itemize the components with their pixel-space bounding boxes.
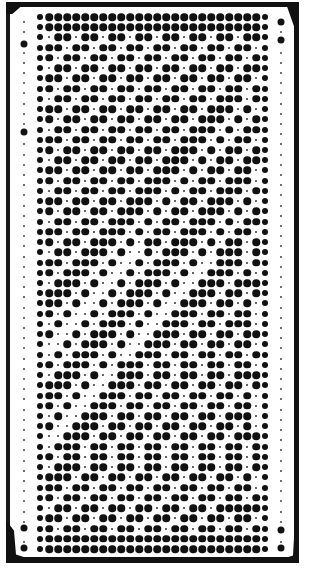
punched-hole — [189, 187, 197, 195]
punched-hole — [45, 494, 53, 502]
marker-dot — [57, 180, 59, 182]
punched-hole — [81, 126, 89, 134]
punched-hole — [90, 187, 98, 195]
punched-hole — [126, 443, 134, 451]
punched-hole — [180, 54, 188, 62]
punched-hole — [171, 463, 179, 471]
punched-hole — [262, 178, 268, 184]
punched-hole — [207, 515, 215, 523]
punched-hole — [126, 105, 134, 113]
punched-hole — [189, 545, 197, 553]
punched-hole — [180, 320, 188, 328]
marker-dot — [165, 210, 167, 212]
punched-hole — [180, 310, 188, 318]
punched-hole — [171, 443, 179, 451]
punched-hole — [63, 289, 71, 297]
punched-hole — [189, 34, 197, 42]
edge-marker-dot — [280, 460, 282, 462]
punched-hole — [189, 146, 197, 154]
punched-hole — [54, 504, 62, 512]
punched-hole — [81, 187, 89, 195]
marker-dot — [183, 292, 185, 294]
edge-marker-dot — [23, 276, 25, 278]
punched-hole — [108, 351, 116, 359]
punched-hole — [162, 433, 170, 441]
punched-hole — [234, 371, 242, 379]
punched-hole — [243, 167, 251, 175]
punched-hole — [262, 167, 268, 173]
punched-hole — [135, 136, 143, 144]
punched-hole — [135, 95, 143, 103]
marker-dot — [156, 200, 158, 202]
marker-dot — [165, 384, 167, 386]
punched-hole — [144, 474, 152, 482]
punched-hole — [252, 525, 260, 533]
marker-dot — [111, 149, 113, 151]
punched-hole — [162, 361, 170, 369]
punched-hole — [72, 44, 80, 52]
edge-marker-dot — [23, 225, 25, 227]
punched-hole — [54, 187, 62, 195]
punched-hole — [189, 13, 197, 21]
punched-hole — [63, 474, 71, 482]
punched-hole — [207, 361, 215, 369]
punched-hole — [262, 546, 268, 552]
punched-hole — [171, 85, 179, 93]
punched-hole — [262, 485, 268, 491]
marker-dot — [165, 118, 167, 120]
punched-hole — [72, 259, 80, 267]
punched-hole — [180, 105, 188, 113]
punched-hole — [180, 382, 188, 390]
punched-hole — [117, 371, 125, 379]
punched-hole — [216, 310, 224, 318]
marker-dot — [201, 241, 203, 243]
punched-hole — [54, 300, 62, 308]
punched-hole — [207, 75, 215, 83]
punched-hole — [216, 34, 224, 42]
punched-hole — [144, 525, 152, 533]
punched-hole — [108, 320, 116, 328]
punched-hole — [252, 259, 260, 267]
marker-dot — [111, 251, 113, 253]
marker-dot — [174, 292, 176, 294]
punched-hole — [207, 208, 215, 216]
punched-hole — [81, 23, 89, 31]
marker-dot — [129, 323, 131, 325]
marker-dot — [174, 180, 176, 182]
marker-dot — [219, 292, 221, 294]
punched-hole — [81, 535, 89, 543]
marker-dot — [183, 395, 185, 397]
marker-dot — [246, 456, 248, 458]
punched-hole — [198, 187, 206, 195]
punched-hole — [63, 443, 71, 451]
punched-hole — [144, 453, 152, 461]
marker-dot — [255, 231, 257, 233]
marker-dot — [219, 456, 221, 458]
punched-hole — [234, 433, 242, 441]
marker-dot — [147, 231, 149, 233]
punched-hole — [234, 23, 242, 31]
punched-hole — [153, 44, 161, 52]
punched-hole — [262, 393, 268, 399]
marker-dot — [111, 210, 113, 212]
punched-hole — [262, 75, 268, 81]
punched-hole — [225, 392, 233, 400]
punched-hole — [135, 44, 143, 52]
punched-hole — [225, 474, 233, 482]
marker-dot — [147, 323, 149, 325]
punched-hole — [135, 545, 143, 553]
marker-dot — [120, 47, 122, 49]
punched-hole — [189, 105, 197, 113]
marker-dot — [210, 262, 212, 264]
marker-dot — [201, 262, 203, 264]
punched-hole — [234, 402, 242, 410]
punched-hole — [180, 535, 188, 543]
edge-marker-dot — [280, 368, 282, 370]
punched-hole — [117, 64, 125, 72]
punched-hole — [144, 463, 152, 471]
marker-dot — [156, 313, 158, 315]
punched-hole — [37, 352, 43, 358]
punched-hole — [171, 146, 179, 154]
punched-hole — [189, 310, 197, 318]
punched-hole — [189, 484, 197, 492]
